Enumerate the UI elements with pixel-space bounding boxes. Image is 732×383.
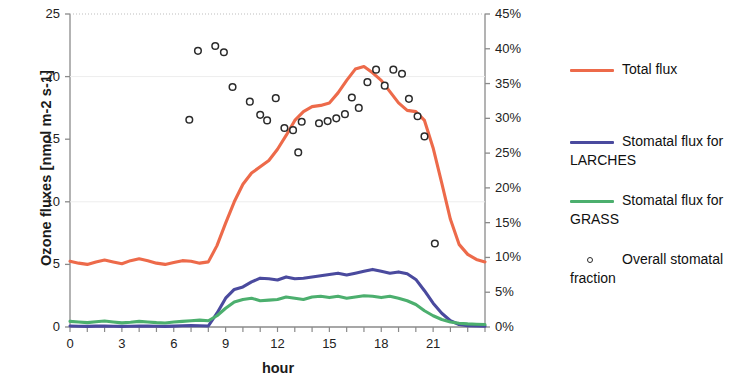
chart-container: Ozone fluxes [nmol m-2 s-1] hour 0510152… (0, 0, 732, 383)
secondary-y-tick-label: 0% (495, 319, 547, 334)
secondary-y-tick-label: 5% (495, 284, 547, 299)
scatter-point (421, 133, 428, 140)
secondary-y-tick-label: 30% (495, 110, 547, 125)
x-tick-label: 3 (102, 336, 142, 351)
y-tick-label: 5 (18, 256, 60, 271)
secondary-y-tick-label: 15% (495, 215, 547, 230)
scatter-point (295, 149, 302, 156)
legend-item[interactable]: Total flux (570, 60, 732, 94)
scatter-point (290, 127, 297, 134)
x-tick-label: 0 (50, 336, 90, 351)
x-tick-label: 9 (206, 336, 246, 351)
scatter-point (414, 113, 421, 120)
secondary-y-tick-label: 25% (495, 145, 547, 160)
scatter-point (390, 66, 397, 73)
scatter-point (316, 120, 323, 127)
scatter-point (272, 95, 279, 102)
scatter-point (342, 111, 349, 118)
series-line-2 (70, 296, 485, 325)
scatter-point (355, 105, 362, 112)
y-tick-label: 0 (18, 319, 60, 334)
legend-label: Stomatal flux for LARCHES (570, 133, 723, 168)
x-tick-label: 18 (361, 336, 401, 351)
legend-line-swatch (570, 141, 614, 144)
legend-line-swatch (570, 200, 614, 203)
secondary-y-tick-label: 10% (495, 249, 547, 264)
legend-item[interactable]: Stomatal flux for GRASS (570, 191, 732, 228)
scatter-point (364, 79, 371, 86)
legend-label: Overall stomatal fraction (570, 251, 723, 286)
y-tick-label: 10 (18, 194, 60, 209)
legend-item[interactable]: Overall stomatal fraction (570, 250, 732, 287)
y-tick-label: 20 (18, 69, 60, 84)
x-tick-label: 12 (258, 336, 298, 351)
secondary-y-tick-label: 35% (495, 76, 547, 91)
legend-item[interactable]: Stomatal flux for LARCHES (570, 132, 732, 169)
legend-label: Stomatal flux for GRASS (570, 192, 723, 227)
scatter-point (373, 66, 380, 73)
secondary-y-tick-label: 40% (495, 41, 547, 56)
scatter-point (221, 49, 228, 56)
y-tick-label: 25 (18, 6, 60, 21)
scatter-point (264, 117, 271, 124)
y-tick-label: 15 (18, 131, 60, 146)
scatter-point (186, 116, 193, 123)
scatter-point (212, 43, 219, 50)
scatter-point (349, 94, 356, 101)
secondary-y-tick-label: 45% (495, 6, 547, 21)
scatter-point (247, 98, 254, 105)
legend-circle-marker-icon (587, 257, 593, 263)
secondary-y-tick-label: 20% (495, 180, 547, 195)
scatter-point (432, 240, 439, 247)
scatter-point (195, 48, 202, 55)
scatter-point (298, 119, 305, 126)
scatter-point (333, 115, 340, 122)
chart-legend: Total fluxStomatal flux for LARCHESStoma… (570, 60, 732, 307)
scatter-point (281, 125, 288, 132)
x-tick-label: 6 (154, 336, 194, 351)
scatter-point (257, 112, 264, 119)
scatter-point (381, 82, 388, 89)
scatter-point (324, 118, 331, 125)
legend-line-swatch (570, 69, 614, 72)
scatter-point (399, 71, 406, 78)
x-tick-label: 21 (413, 336, 453, 351)
scatter-point (229, 84, 236, 91)
x-tick-label: 15 (309, 336, 349, 351)
scatter-point (406, 96, 413, 103)
legend-label: Total flux (622, 61, 677, 77)
